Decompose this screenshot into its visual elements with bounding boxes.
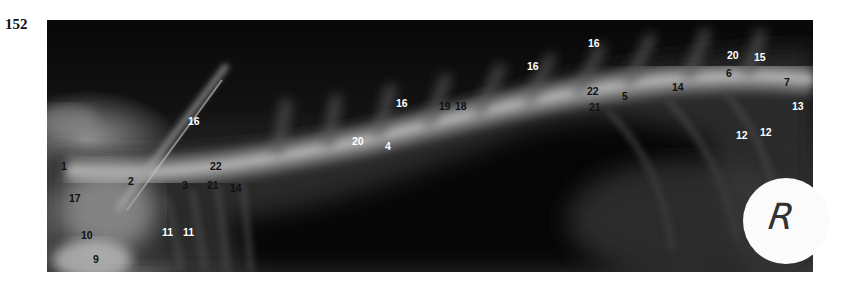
anatomical-label: 14	[230, 183, 242, 194]
anatomical-label: 9	[93, 254, 99, 265]
anatomical-label: 1	[61, 161, 67, 172]
anatomical-label: 18	[455, 101, 467, 112]
anatomical-label: 16	[588, 38, 600, 49]
side-marker: R	[743, 178, 829, 264]
anatomical-label: 5	[622, 91, 628, 102]
anatomical-label: 11	[162, 227, 173, 238]
anatomical-label: 20	[352, 136, 364, 147]
anatomical-label: 21	[207, 180, 219, 191]
anatomical-label: 8	[163, 105, 169, 116]
anatomical-label: 3	[182, 180, 188, 191]
anatomical-label: 15	[754, 52, 766, 63]
anatomical-label: 20	[727, 50, 739, 61]
figure-number: 152	[5, 16, 28, 33]
anatomical-label: 22	[587, 86, 599, 97]
marker-letter: R	[766, 196, 797, 237]
anatomical-label: 16	[188, 116, 200, 127]
anatomical-label: 6	[726, 68, 732, 79]
anatomical-label: 2	[128, 176, 134, 187]
anatomical-label: 22	[210, 161, 222, 172]
anatomical-label: 10	[81, 230, 93, 241]
anatomical-label: 16	[527, 61, 539, 72]
anatomical-label: 19	[439, 101, 451, 112]
anatomical-label: 13	[792, 101, 804, 112]
anatomical-label: 17	[69, 193, 81, 204]
anatomical-label: 12	[760, 127, 772, 138]
anatomical-label: 4	[385, 141, 391, 152]
anatomical-label: 16	[396, 98, 408, 109]
anatomical-label: 21	[589, 102, 601, 113]
anatomical-label: 14	[672, 82, 684, 93]
anatomical-label: 12	[736, 130, 748, 141]
anatomical-label: 11	[183, 227, 194, 238]
anatomical-label: 7	[784, 77, 790, 88]
